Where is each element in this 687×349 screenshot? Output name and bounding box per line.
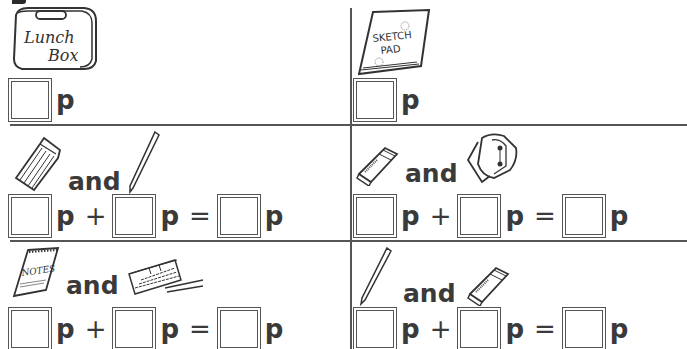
cell-paintbrush-and-pencil: and p + p = p [0, 126, 350, 240]
unit-label: p [401, 87, 420, 113]
svg-text:PAD: PAD [380, 43, 401, 56]
plus-sign: + [430, 201, 452, 231]
answer-box-total[interactable] [220, 197, 258, 235]
notepad-icon: NOTES [12, 246, 60, 298]
unit-label: p [56, 203, 75, 229]
unit-label: p [401, 203, 420, 229]
answer-box-item-1[interactable] [356, 197, 394, 235]
svg-text:SKETCH: SKETCH [372, 29, 412, 44]
unit-label: p [401, 316, 420, 342]
unit-label: p [160, 203, 179, 229]
unit-label: p [505, 316, 524, 342]
sketch-pad-icon: SKETCH PAD [355, 8, 431, 76]
plus-sign: + [85, 314, 107, 344]
lunch-box-icon: Lunch Box [8, 5, 98, 73]
paint-set-icon [125, 258, 205, 298]
answer-box-total[interactable] [220, 310, 258, 348]
unit-label: p [56, 316, 75, 342]
and-label: and [66, 273, 119, 298]
unit-label: p [265, 316, 284, 342]
unit-label: p [265, 203, 284, 229]
eraser-icon [466, 264, 510, 306]
equals-sign: = [534, 201, 556, 231]
answer-box[interactable] [356, 81, 394, 119]
pencil-icon [357, 246, 393, 306]
pencil-sharpener-icon [464, 130, 520, 186]
unit-label: p [610, 316, 629, 342]
cell-lunch-box: Lunch Box p [0, 0, 350, 124]
answer-box[interactable] [11, 81, 49, 119]
answer-box-item-2[interactable] [460, 197, 498, 235]
equals-sign: = [534, 314, 556, 344]
and-label: and [403, 281, 456, 306]
cell-sketch-pad: SKETCH PAD p [351, 0, 687, 124]
eraser-icon [355, 144, 399, 186]
plus-sign: + [430, 314, 452, 344]
answer-box-item-1[interactable] [356, 310, 394, 348]
equals-sign: = [189, 201, 211, 231]
cell-eraser-and-sharpener: and p + p = p [351, 126, 687, 240]
pencil-icon [127, 130, 161, 194]
cell-notes-and-paint-set: NOTES and p + p = p [0, 242, 350, 349]
and-label: and [68, 169, 121, 194]
equals-sign: = [189, 314, 211, 344]
unit-label: p [56, 87, 75, 113]
answer-box-item-1[interactable] [11, 310, 49, 348]
answer-box-total[interactable] [565, 197, 603, 235]
answer-box-item-2[interactable] [115, 197, 153, 235]
answer-box-item-2[interactable] [460, 310, 498, 348]
answer-box-item-2[interactable] [115, 310, 153, 348]
unit-label: p [505, 203, 524, 229]
svg-text:Lunch: Lunch [23, 28, 75, 47]
answer-box-item-1[interactable] [11, 197, 49, 235]
unit-label: p [160, 316, 179, 342]
unit-label: p [610, 203, 629, 229]
plus-sign: + [85, 201, 107, 231]
cell-pencil-and-eraser: and p + p = p [351, 242, 687, 349]
answer-box-total[interactable] [565, 310, 603, 348]
svg-text:Box: Box [47, 46, 78, 65]
paintbrush-icon [12, 134, 62, 194]
and-label: and [405, 161, 458, 186]
